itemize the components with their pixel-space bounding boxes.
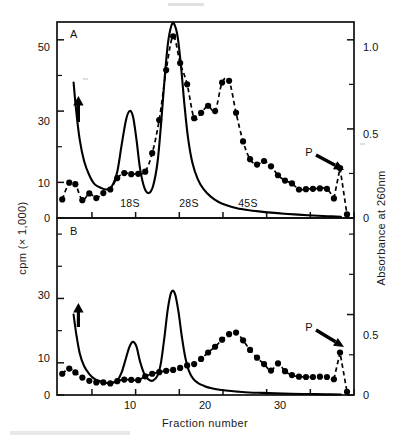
panel-B-y2tick-0: 0 (363, 389, 369, 401)
cpm-data-point (142, 169, 148, 175)
panel-A-ytick-30: 30 (38, 115, 50, 127)
cpm-data-point (170, 33, 176, 39)
cpm-pellet-segment-A (334, 168, 347, 214)
cpm-data-point (296, 374, 302, 380)
cpm-data-point (163, 368, 169, 374)
cpm-data-point (254, 355, 260, 361)
panel-A-y2tick-1.0: 1.0 (363, 41, 378, 53)
panel-A-ytick-50: 50 (38, 41, 50, 53)
panel-A-ytick-0: 0 (44, 212, 50, 224)
cpm-data-point (289, 180, 295, 186)
panel-B-letter: B (70, 225, 77, 237)
panel-A-letter: A (70, 28, 78, 40)
panel-A-ytick-10: 10 (38, 177, 50, 189)
cpm-data-point (275, 360, 281, 366)
cpm-data-point (163, 67, 169, 73)
cpm-data-point (212, 108, 218, 114)
cpm-data-point (344, 389, 350, 395)
cpm-data-point (324, 374, 330, 380)
species-label-18S: 18S (120, 197, 140, 209)
panel-A-y2tick-0.5: 0.5 (363, 128, 378, 140)
cpm-data-point (212, 344, 218, 350)
cpm-data-point (233, 329, 239, 335)
cpm-data-point (344, 211, 350, 217)
cpm-data-point (337, 349, 343, 355)
y-left-axis-title: cpm (× 1,000) (16, 201, 28, 274)
cpm-data-point (205, 103, 211, 109)
cpm-curve-A (62, 36, 334, 200)
cpm-data-point (114, 175, 120, 181)
cpm-data-point (233, 110, 239, 116)
cpm-data-point (289, 372, 295, 378)
cpm-data-point (275, 172, 281, 178)
xtick-20: 20 (199, 399, 211, 411)
cpm-data-point (128, 377, 134, 383)
cpm-data-point (282, 368, 288, 374)
cpm-data-point (86, 378, 92, 384)
cpm-data-point (261, 361, 267, 367)
cpm-data-point (310, 374, 316, 380)
cpm-data-point (191, 361, 197, 367)
cpm-data-point (107, 186, 113, 192)
pellet-arrow-A[interactable] (316, 155, 344, 170)
pellet-arrow-B[interactable] (316, 330, 344, 347)
cpm-data-point (240, 138, 246, 144)
cpm-data-point (268, 367, 274, 373)
xtick-30: 30 (274, 399, 286, 411)
cpm-data-point (72, 369, 78, 375)
cpm-data-point (226, 331, 232, 337)
cpm-data-point (254, 161, 260, 167)
panel-B-ytick-30: 30 (38, 289, 50, 301)
scan-artifact-top (168, 3, 204, 6)
cpm-data-point (247, 156, 253, 162)
cpm-data-point (114, 378, 120, 384)
cpm-data-point (177, 365, 183, 371)
cpm-data-point (282, 177, 288, 183)
cpm-data-point (59, 371, 65, 377)
cpm-data-point (310, 186, 316, 192)
cpm-data-point (156, 369, 162, 375)
panel-B-y2tick-0.5: 0.5 (363, 329, 378, 341)
cpm-data-point (93, 379, 99, 385)
cpm-data-point (59, 196, 65, 202)
cpm-data-point (72, 181, 78, 187)
cpm-data-point (317, 374, 323, 380)
cpm-data-point (100, 190, 106, 196)
plot-area-B (57, 218, 354, 395)
y-right-axis-title: Absorbance at 260nm (375, 170, 387, 285)
cpm-data-point (268, 163, 274, 169)
panel-A-series (59, 23, 350, 218)
cpm-data-point (142, 373, 148, 379)
cpm-pellet-segment-B (334, 353, 347, 392)
cpm-data-point (317, 185, 323, 191)
data-curves (59, 23, 350, 395)
cpm-data-point (198, 356, 204, 362)
panel-B-ytick-10: 10 (38, 352, 50, 364)
cpm-data-point (156, 117, 162, 123)
annotations (73, 96, 344, 347)
cpm-data-point (79, 197, 85, 203)
cpm-data-point (303, 186, 309, 192)
cpm-data-point (205, 349, 211, 355)
cpm-data-point (121, 376, 127, 382)
panel-B-frame (57, 218, 354, 395)
cpm-data-point (331, 195, 337, 201)
cpm-data-point (331, 376, 337, 382)
scan-artifact-right (360, 143, 365, 145)
cpm-data-point (100, 379, 106, 385)
cpm-data-point (86, 190, 92, 196)
cpm-data-point (128, 171, 134, 177)
cpm-data-point (135, 171, 141, 177)
sedimentation-profile-figure: 50 30 10 0 30 10 0 1.0 0.5 0 0.5 0 10 20… (0, 0, 399, 438)
cpm-data-point (79, 375, 85, 381)
cpm-data-point (184, 81, 190, 87)
cpm-data-point (240, 337, 246, 343)
cpm-data-point (135, 377, 141, 383)
cpm-data-point (247, 347, 253, 353)
panel-A-y2tick-0: 0 (363, 212, 369, 224)
panel-A-pellet-label: P (305, 146, 312, 158)
panel-B-ytick-0: 0 (44, 389, 50, 401)
xtick-10: 10 (124, 399, 136, 411)
cpm-data-point (66, 366, 72, 372)
cpm-data-point (226, 78, 232, 84)
